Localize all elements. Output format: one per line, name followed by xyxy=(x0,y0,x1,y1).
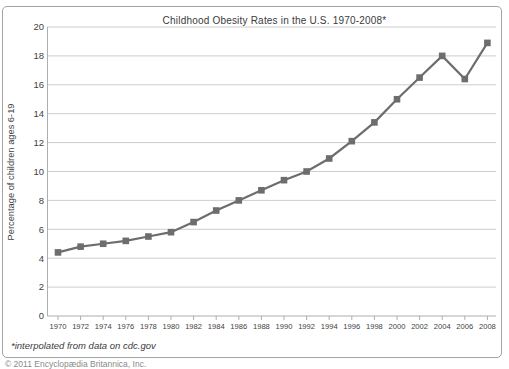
x-tick-label: 2004 xyxy=(434,322,451,331)
data-point-marker xyxy=(462,76,469,83)
data-point-marker xyxy=(484,40,491,47)
data-point-marker xyxy=(258,187,265,194)
y-tick-label: 20 xyxy=(33,21,44,32)
data-point-marker xyxy=(55,249,62,256)
y-tick-label: 4 xyxy=(39,253,44,264)
copyright-line: © 2011 Encyclopædia Britannica, Inc. xyxy=(5,359,146,369)
data-point-marker xyxy=(213,207,220,214)
x-tick-label: 2002 xyxy=(411,322,428,331)
data-point-marker xyxy=(145,233,152,240)
data-point-marker xyxy=(123,238,130,245)
y-tick-label: 8 xyxy=(39,195,44,206)
data-point-marker xyxy=(236,197,243,204)
x-tick-label: 1986 xyxy=(230,322,247,331)
data-point-marker xyxy=(303,168,310,175)
x-tick-label: 1990 xyxy=(276,322,293,331)
y-tick-label: 0 xyxy=(39,310,44,321)
x-tick-label: 1988 xyxy=(253,322,270,331)
x-tick-label: 1994 xyxy=(321,322,338,331)
x-tick-label: 1998 xyxy=(366,322,383,331)
x-tick-label: 1992 xyxy=(298,322,315,331)
data-point-marker xyxy=(416,74,423,81)
data-line xyxy=(58,43,487,253)
y-tick-label: 14 xyxy=(33,108,44,119)
x-tick-label: 1996 xyxy=(343,322,360,331)
chart-footnote: *interpolated from data on cdc.gov xyxy=(11,340,156,351)
x-tick-label: 1976 xyxy=(117,322,134,331)
data-point-marker xyxy=(190,219,197,226)
x-tick-label: 1982 xyxy=(185,322,202,331)
x-tick-label: 1972 xyxy=(72,322,89,331)
x-tick-label: 2008 xyxy=(479,322,496,331)
x-tick-label: 1974 xyxy=(95,322,112,331)
y-tick-label: 12 xyxy=(33,137,44,148)
data-point-marker xyxy=(326,155,333,162)
x-tick-label: 1980 xyxy=(163,322,180,331)
y-tick-label: 18 xyxy=(33,50,44,61)
y-tick-label: 10 xyxy=(33,166,44,177)
data-point-marker xyxy=(77,243,84,250)
data-point-marker xyxy=(281,177,288,184)
y-tick-label: 16 xyxy=(33,79,44,90)
data-point-marker xyxy=(439,53,446,60)
x-tick-label: 1984 xyxy=(208,322,225,331)
y-tick-label: 6 xyxy=(39,224,44,235)
y-axis-title: Percentage of children ages 6-19 xyxy=(6,104,16,241)
data-point-marker xyxy=(371,119,378,126)
data-point-marker xyxy=(168,229,175,236)
x-tick-label: 2000 xyxy=(389,322,406,331)
data-point-marker xyxy=(100,240,107,247)
y-tick-label: 2 xyxy=(39,281,44,292)
x-tick-label: 2006 xyxy=(456,322,473,331)
data-point-marker xyxy=(349,138,356,145)
data-point-marker xyxy=(394,96,401,103)
x-tick-label: 1970 xyxy=(50,322,67,331)
x-tick-label: 1978 xyxy=(140,322,157,331)
